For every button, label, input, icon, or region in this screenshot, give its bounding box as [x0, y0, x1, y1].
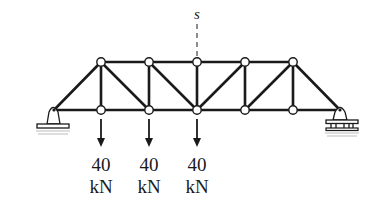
joint-L2 — [145, 106, 153, 114]
joint-L3 — [193, 106, 201, 114]
load-3-unit: kN — [185, 176, 209, 197]
pin-support-left — [36, 108, 70, 135]
joint-U4 — [241, 58, 249, 66]
diagonal-3 — [197, 62, 245, 110]
diagonal-1 — [101, 62, 149, 110]
joint-U3 — [193, 58, 201, 66]
joint-L5 — [289, 106, 297, 114]
left-end-diagonal — [54, 62, 101, 110]
load-arrow-2 — [145, 119, 153, 147]
joint-U2 — [145, 58, 153, 66]
joint-L1 — [97, 106, 105, 114]
joint-U5 — [289, 58, 297, 66]
joint-U1 — [97, 58, 105, 66]
truss-members — [54, 62, 340, 110]
load-2-unit: kN — [137, 176, 161, 197]
diagonal-2 — [149, 62, 197, 110]
load-arrows — [97, 119, 201, 147]
load-arrow-3 — [193, 119, 201, 147]
load-3-value: 40 — [188, 154, 207, 175]
ground-hatch-right — [325, 133, 359, 136]
roller-support-right — [325, 108, 359, 137]
truss-diagram: s — [0, 0, 373, 212]
load-1-unit: kN — [89, 176, 113, 197]
ground-hatch-left — [36, 131, 70, 134]
load-labels: 40 kN 40 kN 40 kN — [89, 154, 209, 197]
load-arrow-1 — [97, 119, 105, 147]
right-end-diagonal — [293, 62, 340, 110]
load-2-value: 40 — [140, 154, 159, 175]
section-label: s — [194, 6, 200, 22]
joint-L4 — [241, 106, 249, 114]
diagonal-4 — [245, 62, 293, 110]
load-1-value: 40 — [92, 154, 111, 175]
